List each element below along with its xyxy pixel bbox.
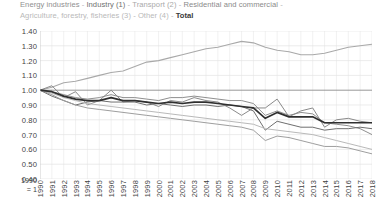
x-axis-tick-label: 1990 (36, 180, 45, 197)
y-axis-tick-label: 1.20 (0, 56, 37, 65)
y-axis-tick-label: 0.90 (0, 101, 37, 110)
y-axis-tick-label: 0.50 (0, 160, 37, 169)
legend-separator: - (278, 0, 283, 9)
x-axis-tick-label: 2007 (238, 180, 247, 197)
y-axis-tick-label: 1.30 (0, 41, 37, 50)
x-axis-tick-label: 2014 (321, 180, 330, 197)
x-axis-tick-label: 2011 (285, 180, 294, 197)
x-axis: 1990199119921993199419951996199719981999… (40, 180, 372, 217)
x-axis-tick-label: 1993 (72, 180, 81, 197)
y-axis-index-note-line2: = 1 (0, 185, 37, 194)
x-axis-tick-label: 2008 (249, 180, 258, 197)
x-axis-tick-label: 2000 (155, 180, 164, 197)
chart-plot-svg (40, 31, 372, 179)
legend-item-1: Industry (1) (86, 0, 125, 9)
x-axis-tick-label: 1994 (83, 180, 92, 197)
y-axis-tick-label: 0.80 (0, 115, 37, 124)
y-axis: 1.401.301.201.101.000.900.800.700.600.50… (0, 31, 37, 179)
y-axis-tick-label: 1.40 (0, 27, 37, 36)
x-axis-tick-label: 1995 (95, 180, 104, 197)
x-axis-tick-label: 2004 (202, 180, 211, 197)
x-axis-tick-label: 2017 (356, 180, 365, 197)
x-axis-tick-label: 1999 (143, 180, 152, 197)
legend-separator: - (131, 11, 138, 20)
x-axis-tick-label: 2015 (332, 180, 341, 197)
x-axis-tick-label: 2016 (344, 180, 353, 197)
x-axis-tick-label: 2001 (166, 180, 175, 197)
x-axis-tick-label: 1998 (131, 180, 140, 197)
chart-container: Energy industries - Industry (1) - Trans… (0, 0, 386, 217)
x-axis-tick-label: 2013 (309, 180, 318, 197)
x-axis-tick-label: 2009 (261, 180, 270, 197)
legend-item-4: Agriculture, forestry, fisheries (3) (20, 11, 131, 20)
x-axis-tick-label: 2010 (273, 180, 282, 197)
legend-item-5: Other (4) (138, 11, 169, 20)
legend-item-6: Total (176, 11, 194, 20)
x-axis-tick-label: 1991 (48, 180, 57, 197)
x-axis-tick-label: 1996 (107, 180, 116, 197)
y-axis-tick-label: 0.70 (0, 130, 37, 139)
x-axis-tick-label: 2003 (190, 180, 199, 197)
y-axis-tick-label: 1.10 (0, 71, 37, 80)
legend-item-0: Energy industries (20, 0, 80, 9)
legend-item-2: Transport (2) (132, 0, 176, 9)
x-axis-tick-label: 1997 (119, 180, 128, 197)
x-axis-tick-label: 2018 (368, 180, 377, 197)
x-axis-tick-label: 2005 (214, 180, 223, 197)
chart-legend: Energy industries - Industry (1) - Trans… (20, 0, 380, 21)
y-axis-tick-label: 1.00 (0, 86, 37, 95)
legend-separator: - (169, 11, 176, 20)
y-axis-tick-label: 0.60 (0, 145, 37, 154)
x-axis-tick-label: 2006 (226, 180, 235, 197)
y-axis-index-note: 1990 = 1 (0, 176, 37, 194)
legend-item-3: Residential and commercial (183, 0, 278, 9)
x-axis-tick-label: 2002 (178, 180, 187, 197)
x-axis-tick-label: 2012 (297, 180, 306, 197)
y-axis-index-note-line1: 1990 (0, 176, 37, 185)
x-axis-tick-label: 1992 (60, 180, 69, 197)
plot-area (40, 31, 372, 179)
